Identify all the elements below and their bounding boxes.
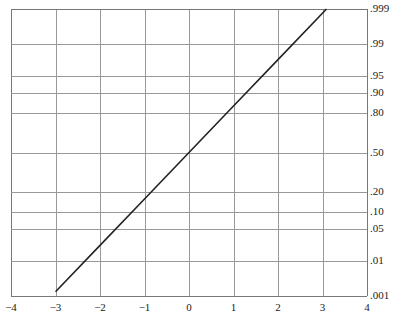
x-tick-label: 3	[303, 302, 343, 313]
x-tick-label: −3	[36, 302, 76, 313]
y-tick-label: .01	[370, 255, 384, 266]
y-tick-label: .99	[370, 38, 384, 49]
normal-probability-plot: .999.99.95.90.80.50.20.10.05.01.001−4−3−…	[0, 0, 398, 323]
x-tick-label: −1	[125, 302, 165, 313]
y-tick-label: .10	[370, 206, 384, 217]
x-tick-label: 2	[258, 302, 298, 313]
plot-canvas	[0, 0, 398, 323]
x-tick-label: −4	[0, 302, 31, 313]
x-tick-label: 0	[169, 302, 209, 313]
y-tick-label: .05	[370, 223, 384, 234]
x-tick-label: 4	[347, 302, 387, 313]
y-tick-label: .95	[370, 70, 384, 81]
y-tick-label: .80	[370, 107, 384, 118]
y-tick-label: .001	[370, 290, 389, 301]
y-tick-label: .90	[370, 87, 384, 98]
x-tick-label: 1	[214, 302, 254, 313]
x-tick-label: −2	[80, 302, 120, 313]
y-tick-label: .999	[370, 3, 389, 14]
y-tick-label: .50	[370, 147, 384, 158]
y-tick-label: .20	[370, 186, 384, 197]
